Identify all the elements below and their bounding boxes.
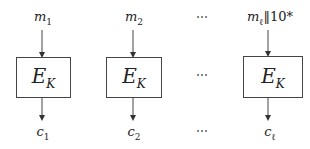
output-label-2: c2 [127, 124, 140, 142]
input-label-1: m1 [34, 9, 52, 27]
ellipsis-bottom: ⋯ [196, 124, 209, 138]
ellipsis-top: ⋯ [196, 10, 209, 24]
cipher-box-2: EK [106, 57, 162, 98]
output-label-last: cℓ [264, 124, 276, 142]
ellipsis-middle: ⋯ [196, 68, 209, 82]
output-label-1: c1 [36, 124, 49, 142]
cipher-box-last: EK [243, 56, 303, 98]
cipher-box-1: EK [16, 57, 71, 98]
input-label-2: m2 [125, 9, 143, 27]
input-label-last: mℓ‖10* [247, 9, 293, 27]
